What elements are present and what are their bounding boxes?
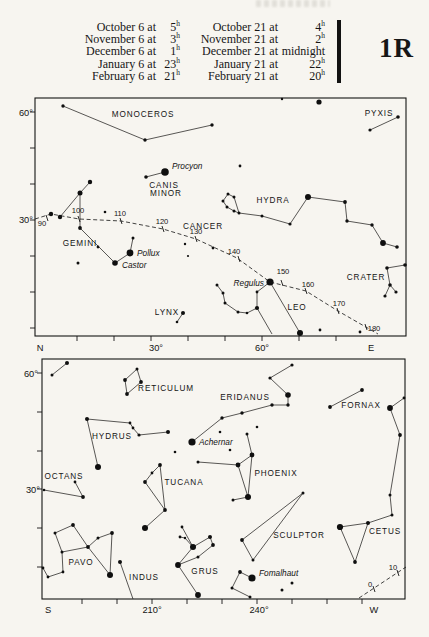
constellation-eridanus: ERIDANUS bbox=[192, 363, 294, 442]
ecliptic-degree-label: 180 bbox=[368, 324, 381, 333]
ecliptic-degree-label: 0 bbox=[368, 580, 372, 589]
star bbox=[163, 508, 167, 512]
star bbox=[123, 378, 127, 382]
constellation-line bbox=[48, 572, 63, 577]
star bbox=[238, 212, 241, 215]
constellation-line bbox=[182, 527, 193, 547]
star bbox=[125, 392, 129, 396]
star bbox=[179, 536, 182, 539]
star bbox=[238, 570, 242, 574]
constellation-line bbox=[160, 465, 165, 510]
constellation-line bbox=[387, 268, 390, 285]
constellation-label: LEO bbox=[287, 303, 306, 312]
star bbox=[95, 464, 101, 470]
latitude-label: 30° bbox=[19, 215, 33, 225]
ecliptic-degree-label: 140 bbox=[228, 247, 241, 256]
constellation-line bbox=[248, 455, 252, 497]
constellation-grus: GRUS bbox=[175, 526, 219, 598]
constellation-line bbox=[390, 408, 400, 435]
ecliptic-degree-tick bbox=[46, 215, 48, 221]
constellation-label: MINOR bbox=[150, 189, 182, 198]
star bbox=[136, 368, 139, 371]
star bbox=[97, 537, 100, 540]
star bbox=[256, 426, 259, 429]
constellation-line bbox=[270, 365, 292, 378]
ecliptic-degree-label: 90 bbox=[38, 219, 46, 228]
star-name-castor: Castor bbox=[122, 260, 148, 270]
star bbox=[78, 191, 83, 196]
constellation-line bbox=[238, 465, 248, 497]
constellation-line bbox=[262, 216, 290, 224]
star bbox=[233, 210, 236, 213]
azimuth-label: 30° bbox=[149, 343, 163, 353]
star bbox=[184, 243, 186, 245]
ecliptic-degree-label: 130 bbox=[190, 227, 203, 236]
star bbox=[398, 433, 402, 437]
star bbox=[166, 430, 170, 434]
constellation-line bbox=[242, 540, 253, 560]
star bbox=[62, 571, 65, 574]
constellation-label: HYDRA bbox=[256, 196, 289, 205]
constellation-line bbox=[43, 568, 48, 577]
azimuth-label: N bbox=[37, 343, 44, 353]
star bbox=[220, 416, 223, 419]
constellation-label: FORNAX bbox=[341, 401, 381, 410]
star bbox=[43, 489, 46, 492]
star bbox=[319, 329, 322, 332]
constellation-line bbox=[242, 405, 272, 413]
star bbox=[176, 321, 179, 324]
star bbox=[281, 589, 284, 592]
star-name-procyon: Procyon bbox=[172, 161, 203, 171]
star bbox=[316, 99, 321, 104]
star bbox=[212, 247, 215, 250]
star-name-pollux: Pollux bbox=[137, 248, 160, 258]
constellation-label: PAVO bbox=[68, 558, 93, 567]
star bbox=[197, 556, 200, 559]
constellation-line bbox=[347, 221, 372, 225]
star bbox=[208, 535, 212, 539]
star bbox=[61, 104, 64, 107]
ecliptic-degree-label: 170 bbox=[333, 299, 346, 308]
constellation-pavo: PAVO bbox=[42, 523, 114, 578]
constellation-line bbox=[55, 525, 73, 533]
star bbox=[85, 417, 89, 421]
constellation-pyxis: PYXIS bbox=[365, 109, 400, 132]
constellation-label: CETUS bbox=[369, 527, 401, 536]
star bbox=[345, 219, 348, 222]
star bbox=[42, 567, 45, 570]
sky-charts-canvas: 60°30°N30°60°EMONOCEROSCANISMINORGEMINIC… bbox=[0, 0, 429, 637]
constellation-line bbox=[73, 525, 88, 547]
star bbox=[210, 123, 213, 126]
ecliptic-degree-label: 110 bbox=[114, 209, 126, 218]
star bbox=[227, 193, 230, 196]
star bbox=[281, 98, 283, 100]
constellation-line bbox=[55, 533, 62, 552]
star bbox=[222, 292, 225, 295]
star bbox=[216, 284, 219, 287]
star bbox=[58, 215, 62, 219]
constellation-label: TUCANA bbox=[164, 478, 203, 487]
constellation-line bbox=[52, 363, 67, 375]
star bbox=[328, 405, 332, 409]
constellation-label: CRATER bbox=[347, 273, 385, 282]
constellation-line bbox=[145, 125, 212, 140]
star bbox=[86, 545, 90, 549]
star bbox=[65, 361, 69, 365]
star bbox=[360, 388, 364, 392]
star bbox=[252, 559, 255, 562]
star bbox=[359, 331, 362, 334]
star bbox=[144, 175, 148, 179]
constellation-label: OCTANS bbox=[45, 472, 84, 481]
star bbox=[132, 427, 135, 430]
star bbox=[286, 403, 289, 406]
constellation-line bbox=[355, 523, 368, 562]
constellation-line bbox=[125, 369, 137, 380]
star bbox=[151, 472, 154, 475]
star bbox=[343, 200, 347, 204]
constellation-line bbox=[145, 510, 165, 528]
star bbox=[197, 461, 200, 464]
star bbox=[256, 291, 259, 294]
constellation-label: INDUS bbox=[129, 573, 159, 582]
constellation-line bbox=[387, 265, 405, 268]
constellation-label: RETICULUM bbox=[138, 384, 194, 393]
